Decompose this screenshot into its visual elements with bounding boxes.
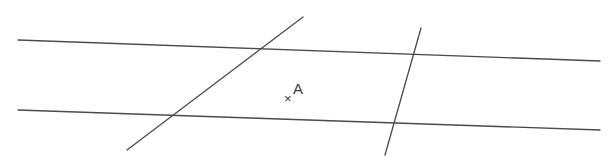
point-a-label: A	[293, 80, 303, 97]
geometry-figure: × A	[0, 0, 614, 156]
figure-canvas: × A	[0, 0, 614, 156]
point-a-marker: ×	[284, 91, 292, 106]
figure-background	[0, 0, 614, 156]
